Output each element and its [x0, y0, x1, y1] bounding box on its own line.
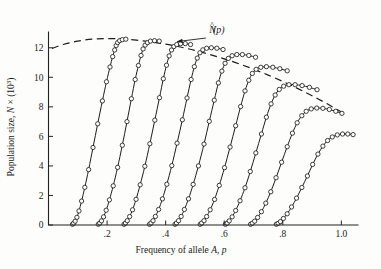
- trajectory-5-point: [207, 119, 211, 123]
- trajectory-8-point: [304, 109, 308, 113]
- trajectory-7-point: [315, 88, 319, 92]
- trajectory-5-point: [176, 219, 180, 223]
- envelope-dashed-line: [52, 39, 341, 112]
- trajectory-5-point: [220, 69, 224, 73]
- trajectory-7-point: [259, 132, 263, 136]
- trajectory-9-point: [321, 144, 325, 148]
- trajectory-5-point: [186, 197, 190, 201]
- trajectory-7-point: [233, 208, 237, 212]
- trajectory-6-point: [208, 208, 212, 212]
- trajectory-2: [96, 39, 161, 227]
- trajectory-6-point: [254, 67, 258, 71]
- trajectory-6-point: [285, 69, 289, 73]
- trajectory-3-point: [148, 142, 152, 146]
- trajectory-8-point: [264, 201, 268, 205]
- trajectory-4-point: [153, 214, 157, 218]
- trajectory-9-point: [294, 196, 298, 200]
- trajectory-7-point: [269, 102, 273, 106]
- trajectory-8-point: [300, 114, 304, 118]
- trajectory-2-line: [98, 41, 159, 225]
- trajectory-4-point: [221, 47, 225, 51]
- trajectory-6-point: [212, 197, 216, 201]
- trajectory-2-point: [115, 165, 119, 169]
- trajectory-5-point: [223, 61, 227, 65]
- trajectory-9-point: [351, 132, 355, 136]
- trajectory-2-point: [157, 39, 161, 43]
- trajectory-2-point: [111, 184, 115, 188]
- trajectory-4-point: [170, 163, 174, 167]
- trajectory-8-point: [315, 106, 319, 110]
- trajectory-6-point: [264, 65, 268, 69]
- equilibrium-envelope-curve: [52, 39, 341, 112]
- trajectory-8-point: [340, 111, 344, 115]
- trajectory-3-point: [153, 118, 157, 122]
- axes: .2.4.6.81.0 024681012: [34, 32, 358, 239]
- trajectory-8: [248, 106, 344, 227]
- trajectory-8-point: [290, 131, 294, 135]
- trajectory-7-point: [238, 199, 242, 203]
- trajectory-7-point: [300, 83, 304, 87]
- trajectory-1-point: [83, 185, 87, 189]
- trajectory-8-point: [279, 160, 283, 164]
- trajectory-9-point: [316, 152, 320, 156]
- x-tick-label: .6: [221, 229, 228, 239]
- trajectory-7-point: [264, 115, 268, 119]
- x-tick-label: 1.0: [335, 229, 347, 239]
- trajectory-2-point: [133, 77, 137, 81]
- trajectory-8-point: [309, 107, 313, 111]
- trajectory-2-point: [136, 63, 140, 67]
- trajectory-5-point: [196, 164, 200, 168]
- trajectory-5-point: [179, 214, 183, 218]
- trajectory-8-point: [327, 107, 331, 111]
- trajectory-2-point: [129, 97, 133, 101]
- trajectory-curves: [70, 37, 355, 226]
- trajectory-5-point: [202, 142, 206, 146]
- trajectory-3-point: [127, 214, 131, 218]
- trajectory-3-point: [164, 63, 168, 67]
- trajectory-2-point: [104, 208, 108, 212]
- trajectory-6-point: [278, 67, 282, 71]
- trajectory-1-point: [100, 99, 104, 103]
- y-tick-label: 0: [39, 220, 44, 230]
- trajectory-6-point: [238, 104, 242, 108]
- trajectory-5-point: [226, 56, 230, 60]
- trajectory-7-point: [277, 87, 281, 91]
- y-tick-label: 6: [39, 132, 44, 142]
- trajectory-1-point: [75, 215, 79, 219]
- trajectory-5-point: [212, 98, 216, 102]
- y-axis-title: Population size, N × (103): [5, 78, 18, 177]
- trajectory-1-point: [96, 122, 100, 126]
- trajectory-4-point: [204, 46, 208, 50]
- trajectory-3-point: [143, 164, 147, 168]
- trajectory-5-point: [235, 52, 239, 56]
- trajectory-8-point: [334, 109, 338, 113]
- trajectory-4-point: [175, 141, 179, 145]
- trajectory-9-point: [340, 132, 344, 136]
- trajectory-9-point: [289, 205, 293, 209]
- trajectory-9-point: [285, 212, 289, 216]
- trajectory-4-point: [189, 77, 193, 81]
- trajectory-1-point: [113, 48, 117, 52]
- x-tick-label: .2: [104, 229, 111, 239]
- trajectory-5-point: [191, 182, 195, 186]
- trajectory-7-point: [254, 151, 258, 155]
- trajectory-3-point: [161, 77, 165, 81]
- trajectory-4-point: [180, 118, 184, 122]
- trajectory-2-point: [101, 215, 105, 219]
- y-axis-ticks: 024681012: [34, 43, 53, 230]
- population-size-vs-allele-frequency-chart: .2.4.6.81.0 024681012 N^(p) Frequency of…: [0, 0, 381, 269]
- trajectory-5-point: [230, 54, 234, 58]
- trajectory-7: [223, 83, 319, 227]
- trajectory-5-point: [247, 53, 251, 57]
- y-tick-label: 2: [39, 191, 44, 201]
- trajectory-7-point: [293, 83, 297, 87]
- y-tick-label: 10: [34, 73, 44, 83]
- trajectory-3-point: [130, 208, 134, 212]
- y-tick-label: 12: [34, 43, 44, 53]
- trajectory-3-point: [188, 42, 192, 46]
- trajectory-9-point: [325, 138, 329, 142]
- trajectory-3-point: [125, 219, 129, 223]
- trajectory-1-point: [110, 54, 114, 58]
- trajectory-4-point: [160, 197, 164, 201]
- trajectory-1: [70, 37, 128, 226]
